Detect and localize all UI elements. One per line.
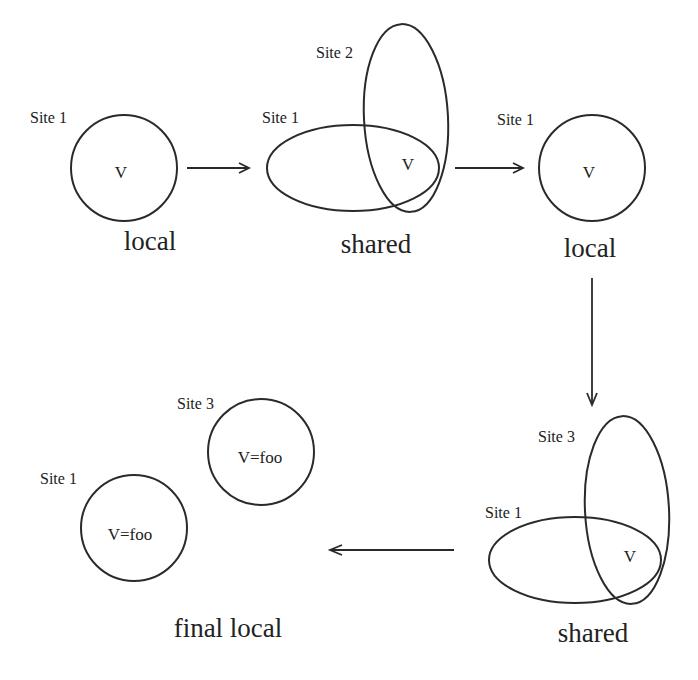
variable-value-label: V=foo — [108, 525, 153, 544]
stage-3-local: Site 1 V local — [497, 111, 645, 263]
arrow-down-icon — [587, 278, 597, 405]
site-3-label: Site 3 — [177, 395, 214, 412]
site-1-label: Site 1 — [485, 504, 522, 521]
stage-caption: local — [124, 226, 176, 256]
variable-label: V — [402, 155, 415, 174]
site-1-label: Site 1 — [40, 470, 77, 487]
variable-label: V — [115, 163, 128, 182]
stage-5-final-local: Site 3 V=foo Site 1 V=foo final local — [40, 395, 314, 643]
arrow-right-icon — [187, 163, 249, 173]
site-3-ellipse — [580, 414, 674, 606]
stage-caption: final local — [174, 613, 283, 643]
arrow-right-icon — [455, 163, 523, 173]
state-transition-diagram: Site 1 V local Site 2 Site 1 V shared Si… — [0, 0, 698, 680]
site-2-label: Site 2 — [316, 44, 353, 61]
stage-caption: shared — [341, 229, 412, 259]
stage-caption: shared — [558, 618, 629, 648]
arrow-left-icon — [330, 545, 454, 555]
stage-2-shared: Site 2 Site 1 V shared — [262, 22, 453, 259]
site-1-label: Site 1 — [497, 111, 534, 128]
site-1-label: Site 1 — [262, 109, 299, 126]
stage-4-shared: Site 3 Site 1 V shared — [485, 414, 674, 648]
site-3-label: Site 3 — [538, 428, 575, 445]
site-2-ellipse — [359, 22, 453, 214]
variable-value-label: V=foo — [238, 448, 283, 467]
site-1-label: Site 1 — [30, 109, 67, 126]
variable-label: V — [624, 547, 637, 566]
stage-1-local: Site 1 V local — [30, 109, 177, 256]
stage-caption: local — [564, 233, 616, 263]
variable-label: V — [583, 163, 596, 182]
